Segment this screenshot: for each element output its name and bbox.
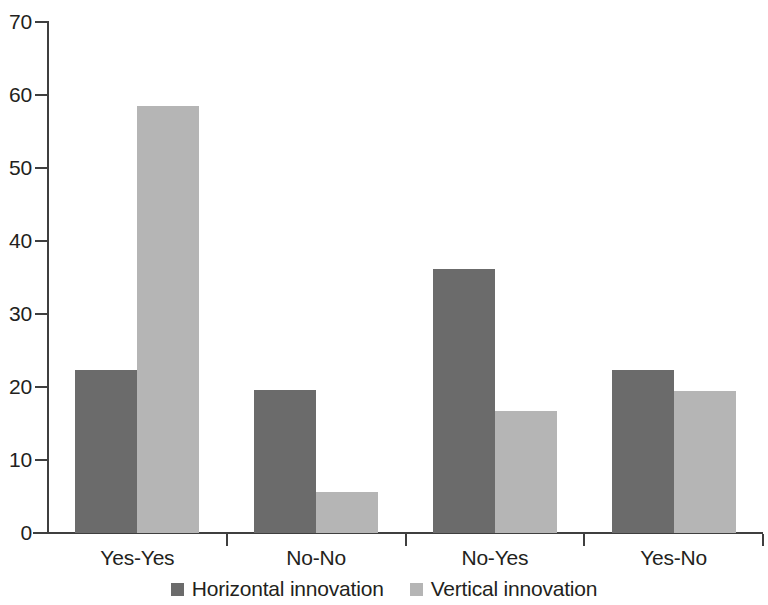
y-axis-tick-label: 30 xyxy=(0,303,32,324)
bar xyxy=(433,269,495,533)
y-axis-tick-label: 70 xyxy=(0,11,32,32)
light-gray-swatch xyxy=(410,583,423,596)
y-axis-tick-label: 10 xyxy=(0,449,32,470)
bar xyxy=(674,391,736,533)
x-axis-tick xyxy=(405,534,407,546)
dark-gray-swatch xyxy=(171,583,184,596)
bar xyxy=(316,492,378,533)
bar xyxy=(254,390,316,533)
x-axis-tick xyxy=(762,534,764,546)
chart-legend: Horizontal innovationVertical innovation xyxy=(0,578,768,600)
x-axis-tick xyxy=(226,534,228,546)
bars-layer xyxy=(47,22,763,533)
legend-label: Vertical innovation xyxy=(431,578,598,600)
y-axis-tick-label: 0 xyxy=(0,522,32,543)
category-label-no-no: No-No xyxy=(236,546,396,570)
bar xyxy=(495,411,557,533)
bar xyxy=(75,370,137,533)
category-label-yes-no: Yes-No xyxy=(594,546,754,570)
x-axis-tick xyxy=(583,534,585,546)
bar xyxy=(137,106,199,533)
bar xyxy=(612,370,674,533)
category-label-yes-yes: Yes-Yes xyxy=(57,546,217,570)
plot-area xyxy=(47,22,763,533)
y-axis-tick-label: 20 xyxy=(0,376,32,397)
y-axis-tick-label: 50 xyxy=(0,157,32,178)
y-axis-tick-label: 60 xyxy=(0,84,32,105)
category-label-no-yes: No-Yes xyxy=(415,546,575,570)
legend-item: Vertical innovation xyxy=(410,578,598,600)
y-axis-tick-label: 40 xyxy=(0,230,32,251)
bar-chart: 010203040506070 Yes-YesNo-NoNo-YesYes-No… xyxy=(0,0,768,605)
legend-item: Horizontal innovation xyxy=(171,578,384,600)
legend-label: Horizontal innovation xyxy=(192,578,384,600)
